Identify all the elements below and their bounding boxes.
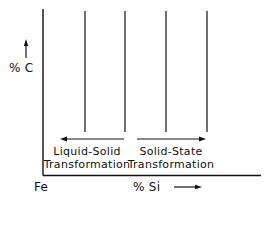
region-label-liquid-solid-line2: Transformation (44, 158, 131, 171)
left-arrow-icon (60, 137, 124, 142)
region-label-solid-state-line1: Solid-State (139, 145, 202, 158)
region-label-liquid-solid-line1: Liquid-Solid (53, 145, 121, 158)
si-right-arrow-icon (174, 185, 202, 189)
up-arrow-icon (24, 39, 28, 58)
x-origin-label: Fe (34, 181, 48, 194)
region-label-solid-state-line2: Transformation (128, 158, 215, 171)
right-arrow-icon (137, 137, 206, 142)
y-axis-label: % C (9, 62, 34, 75)
x-axis-label: % Si (133, 181, 160, 194)
